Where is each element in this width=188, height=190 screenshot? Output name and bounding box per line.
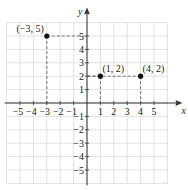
y-tick-label: 2: [79, 71, 84, 82]
x-axis-label: x: [180, 105, 186, 116]
x-tick-label: −4: [26, 106, 37, 117]
y-tick-label: 3: [79, 57, 84, 68]
x-tick-label: 2: [111, 106, 116, 117]
x-tick-label: −3: [39, 106, 50, 117]
x-tick-label: 3: [125, 106, 130, 117]
x-tick-label: −5: [13, 106, 24, 117]
y-tick-label: −4: [73, 151, 84, 162]
y-tick-label: −3: [73, 138, 84, 149]
point-label: (1, 2): [102, 63, 124, 75]
y-axis-arrow-icon: [84, 8, 90, 15]
y-tick-label: −2: [73, 124, 84, 135]
data-point: [98, 74, 103, 79]
y-tick-label: −5: [73, 165, 84, 176]
x-tick-label: −2: [53, 106, 64, 117]
coordinate-plane: xy−5−4−3−2−11234554321−1−2−3−4−5(−3, 5)(…: [0, 0, 188, 190]
data-point: [138, 74, 143, 79]
x-tick-label: 5: [152, 106, 157, 117]
y-tick-label: 4: [79, 44, 84, 55]
x-tick-label: 1: [98, 106, 103, 117]
point-label: (−3, 5): [16, 23, 43, 35]
point-label: (4, 2): [143, 63, 165, 75]
y-axis-label: y: [77, 6, 83, 17]
x-tick-label: 4: [138, 106, 143, 117]
y-tick-label: 1: [79, 84, 84, 95]
data-point: [44, 33, 49, 38]
y-tick-label: −1: [73, 111, 84, 122]
